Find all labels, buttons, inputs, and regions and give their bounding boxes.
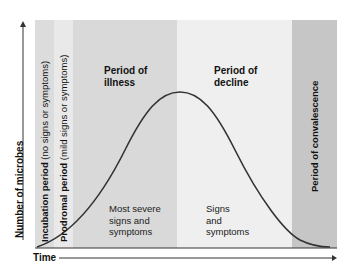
axes-and-curve xyxy=(0,0,352,272)
microbe-curve xyxy=(37,92,330,247)
decline-label: Period of decline xyxy=(214,65,257,89)
incubation-label: Incubation period (no signs or symptoms) xyxy=(39,61,50,242)
prodromal-label: Prodromal period (mild signs or symptoms… xyxy=(58,55,69,242)
illness-note: Most severe signs and symptoms xyxy=(109,203,161,238)
y-axis-label: Number of microbes xyxy=(14,141,25,238)
convalescence-label: Period of convalescence xyxy=(309,81,320,192)
decline-note: Signs and symptoms xyxy=(206,203,249,238)
x-axis-label: Time xyxy=(33,252,56,263)
illness-label: Period of illness xyxy=(104,65,147,89)
